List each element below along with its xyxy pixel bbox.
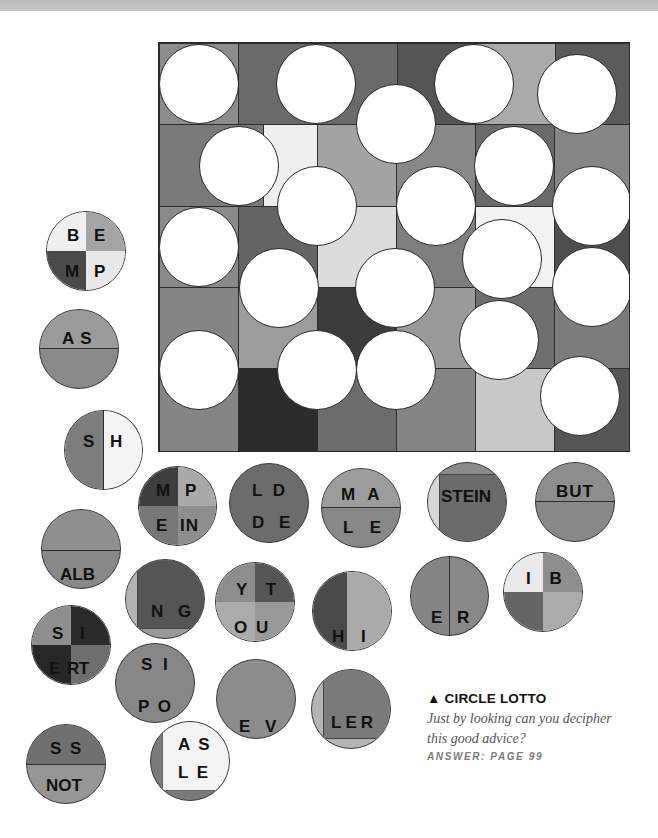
piece-label: I B (526, 570, 563, 587)
piece-ler[interactable]: LER (311, 669, 391, 749)
board-hole[interactable] (239, 248, 319, 328)
board-hole[interactable] (540, 356, 620, 436)
puzzle-caption: ▲ CIRCLE LOTTO Just by looking can you d… (427, 691, 657, 762)
piece-sipo[interactable]: S I P O (115, 643, 195, 723)
board-hole[interactable] (537, 54, 617, 134)
board-hole[interactable] (459, 300, 539, 380)
answer-reference: ANSWER: PAGE 99 (427, 751, 657, 762)
page-top-strip (0, 0, 658, 11)
piece-as[interactable]: A S (39, 309, 119, 389)
board-hole[interactable] (474, 126, 554, 206)
board-hole[interactable] (276, 44, 356, 124)
piece-label: A S (178, 736, 211, 753)
piece-label: O U (234, 619, 269, 636)
piece-label: LER (331, 714, 377, 731)
board-hole[interactable] (462, 219, 542, 299)
piece-but[interactable]: BUT (535, 462, 615, 542)
board-hole[interactable] (355, 248, 435, 328)
piece-label: S I (141, 656, 169, 673)
piece-label: M A (341, 486, 381, 503)
piece-label: S S (50, 740, 82, 757)
piece-label: NOT (46, 777, 82, 794)
piece-label: BUT (556, 483, 594, 500)
piece-label: E R (431, 609, 470, 626)
piece-label: L E (178, 764, 209, 781)
board-hole[interactable] (159, 207, 239, 287)
piece-bemp[interactable]: B E M P (46, 211, 126, 291)
piece-label: E IN (156, 517, 199, 534)
piece-ssnot[interactable]: S S NOT (26, 724, 106, 804)
puzzle-prompt: Just by looking can you decipher this go… (427, 709, 657, 749)
piece-label: M P (65, 263, 106, 280)
board-hole[interactable] (356, 330, 436, 410)
board-hole[interactable] (434, 44, 514, 124)
piece-ldde[interactable]: L D D E (229, 463, 309, 543)
piece-label: M P (156, 482, 197, 499)
piece-label: L E (343, 519, 382, 536)
lotto-board (158, 42, 630, 452)
board-hole[interactable] (159, 330, 239, 410)
piece-label: ALB (60, 566, 95, 583)
piece-label: D E (252, 514, 291, 531)
piece-label: N G (151, 603, 192, 620)
piece-label: B E (67, 227, 106, 244)
board-hole[interactable] (199, 126, 279, 206)
piece-ytou[interactable]: Y T O U (215, 562, 295, 642)
piece-male[interactable]: M A L E (321, 468, 401, 548)
board-hole[interactable] (552, 166, 630, 246)
piece-stein[interactable]: STEIN (427, 462, 507, 542)
piece-label: L D (252, 482, 286, 499)
board-hole[interactable] (277, 166, 357, 246)
puzzle-title: ▲ CIRCLE LOTTO (427, 691, 657, 706)
piece-label: S H (83, 433, 123, 450)
piece-label: S I (52, 625, 86, 642)
piece-alb[interactable]: ALB (41, 509, 121, 589)
board-hole[interactable] (552, 247, 630, 327)
piece-sh[interactable]: S H (64, 410, 143, 490)
piece-label: H I (332, 628, 367, 645)
board-hole[interactable] (277, 330, 357, 410)
board-hole[interactable] (159, 44, 239, 124)
piece-ib[interactable]: I B (503, 552, 583, 632)
piece-ng[interactable]: N G (125, 559, 205, 639)
piece-label: E RT (49, 660, 89, 677)
piece-mpein[interactable]: M P E IN (138, 466, 217, 546)
board-hole[interactable] (396, 166, 476, 246)
board-hole[interactable] (356, 84, 436, 164)
piece-siert[interactable]: S I E RT (31, 605, 111, 685)
piece-label: A S (62, 330, 93, 347)
piece-er[interactable]: E R (410, 556, 489, 636)
piece-label: P O (138, 698, 172, 715)
piece-asle[interactable]: A S L E (150, 721, 230, 801)
piece-label: E V (239, 718, 277, 735)
piece-hi[interactable]: H I (312, 571, 392, 651)
triangle-up-icon: ▲ (427, 691, 441, 706)
piece-label: STEIN (441, 488, 491, 505)
piece-label: Y T (236, 581, 277, 598)
